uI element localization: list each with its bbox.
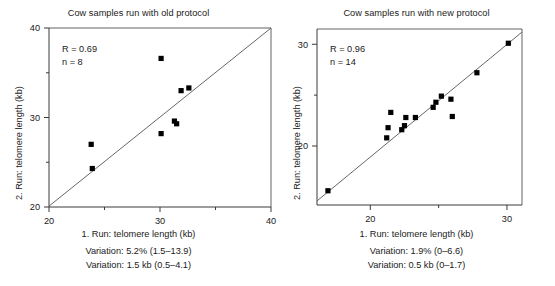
data-point-marker	[325, 188, 330, 193]
data-point-marker	[388, 110, 393, 115]
x-tick-label: 30	[502, 214, 512, 224]
data-point-marker	[385, 125, 390, 130]
x-tick-label: 40	[266, 216, 276, 226]
y-tick-label: 20	[30, 202, 40, 212]
n-value-old: n = 8	[62, 56, 97, 69]
data-point-marker	[431, 105, 436, 110]
panel-old-protocol: Cow samples run with old protocol 203040…	[0, 0, 277, 286]
data-point-marker	[474, 70, 479, 75]
y-tick-label: 30	[30, 113, 40, 123]
x-tick-label: 30	[155, 216, 165, 226]
data-point-marker	[433, 100, 438, 105]
stats-annotation-old: R = 0.69 n = 8	[62, 43, 97, 68]
data-point-marker	[403, 115, 408, 120]
n-value-new: n = 14	[330, 56, 365, 69]
data-point-marker	[159, 56, 164, 61]
variation-kb-new: Variation: 0.5 kb (0–1.7)	[278, 259, 555, 272]
y-tick-label: 30	[298, 40, 308, 50]
x-axis-label-old: 1. Run: telomere length (kb)	[0, 228, 277, 241]
r-value-new: R = 0.96	[330, 43, 365, 56]
data-point-marker	[159, 131, 164, 136]
variation-kb-old: Variation: 1.5 kb (0.5–4.1)	[0, 259, 277, 272]
data-point-marker	[450, 114, 455, 119]
data-point-marker	[448, 97, 453, 102]
data-point-marker	[439, 94, 444, 99]
variation-percent-new: Variation: 1.9% (0–6.6)	[278, 245, 555, 258]
y-axis-label-new: 2. Run: telomere length (kb)	[292, 86, 302, 200]
x-axis-label-new: 1. Run: telomere length (kb)	[278, 228, 555, 241]
panel-new-protocol: Cow samples run with new protocol 203020…	[278, 0, 555, 286]
data-point-marker	[506, 41, 511, 46]
data-point-marker	[413, 115, 418, 120]
data-point-marker	[178, 88, 183, 93]
y-tick-label: 40	[30, 23, 40, 33]
data-point-marker	[402, 123, 407, 128]
data-point-marker	[384, 135, 389, 140]
r-value-old: R = 0.69	[62, 43, 97, 56]
variation-percent-old: Variation: 5.2% (1.5–13.9)	[0, 245, 277, 258]
x-tick-label: 20	[44, 216, 54, 226]
plot-area-old: 203040203040	[0, 0, 277, 286]
stats-annotation-new: R = 0.96 n = 14	[330, 43, 365, 68]
data-point-marker	[89, 142, 94, 147]
data-point-marker	[174, 121, 179, 126]
data-point-marker	[186, 85, 191, 90]
data-point-marker	[90, 166, 95, 171]
telomere-length-scatter-figure: Cow samples run with old protocol 203040…	[0, 0, 555, 286]
x-tick-label: 20	[365, 214, 375, 224]
plot-area-new: 20302030	[278, 0, 555, 286]
y-axis-label-old: 2. Run: telomere length (kb)	[14, 86, 24, 200]
